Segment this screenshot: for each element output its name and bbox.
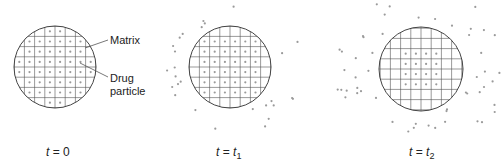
released-particle (483, 86, 485, 88)
released-particle (451, 25, 453, 27)
drug-particle (59, 81, 61, 83)
released-particle (468, 34, 470, 36)
released-particle (375, 97, 377, 99)
released-particle (356, 92, 358, 94)
released-particle (233, 6, 235, 8)
drug-particle (28, 61, 30, 63)
drug-particle (79, 91, 81, 93)
released-particle (382, 33, 384, 35)
released-particle (498, 72, 500, 74)
drug-particle (203, 81, 205, 83)
drug-particle (79, 51, 81, 53)
drug-particle (405, 73, 407, 75)
released-particle (344, 96, 346, 98)
drug-particle (203, 40, 205, 42)
released-particle (339, 49, 341, 51)
released-particle (367, 70, 369, 72)
drug-particle (214, 40, 216, 42)
panel-t2 (337, 3, 501, 132)
time-label-t2: t = t2 (409, 145, 434, 161)
released-particle (476, 76, 478, 78)
released-particle (174, 50, 176, 52)
drug-particle (234, 71, 236, 73)
released-particle (281, 52, 283, 54)
drug-label-line2: particle (110, 85, 145, 97)
panel-t0 (14, 26, 96, 108)
drug-particle (49, 51, 51, 53)
drug-particle (244, 51, 246, 53)
released-particle (356, 87, 358, 89)
drug-particle (49, 61, 51, 63)
drug-particle (49, 102, 51, 104)
matrix-label: Matrix (110, 34, 140, 46)
drug-particle (203, 71, 205, 73)
released-particle (474, 6, 476, 8)
drug-particle (234, 51, 236, 53)
released-particle (434, 18, 436, 20)
released-particle (484, 71, 486, 73)
drug-particle (59, 40, 61, 42)
drug-particle (59, 61, 61, 63)
released-particle (389, 5, 391, 7)
drug-particle (69, 71, 71, 73)
released-particle (481, 121, 483, 123)
released-particle (446, 108, 448, 110)
released-particle (418, 17, 420, 19)
released-particle (174, 66, 176, 68)
drug-particle (69, 91, 71, 93)
drug-particle (18, 71, 20, 73)
time-label-t1: t = t1 (216, 145, 241, 161)
released-particle (428, 125, 430, 127)
released-particle (444, 121, 446, 123)
released-particle (480, 52, 482, 54)
released-particle (434, 127, 436, 129)
released-particle (407, 130, 409, 132)
released-particle (264, 125, 266, 127)
released-particle (343, 69, 345, 71)
released-particle (177, 83, 179, 85)
drug-particle (234, 40, 236, 42)
drug-particle (49, 81, 51, 83)
drug-particle (79, 71, 81, 73)
released-particles (166, 6, 299, 130)
drug-particle (59, 51, 61, 53)
drug-particle (18, 61, 20, 63)
released-particle (360, 90, 362, 92)
drug-particle (90, 71, 92, 73)
released-particle (171, 86, 173, 88)
released-particle (296, 41, 298, 43)
drug-particle (203, 51, 205, 53)
drug-particle (234, 61, 236, 63)
released-particle (201, 26, 203, 28)
released-particle (214, 128, 216, 130)
released-particle (270, 100, 272, 102)
drug-label-line1: Drug (110, 72, 134, 84)
released-particle (252, 108, 254, 110)
drug-particle (224, 40, 226, 42)
released-particle (355, 57, 357, 59)
released-particle (273, 104, 275, 106)
drug-particle (39, 81, 41, 83)
drug-particle (244, 61, 246, 63)
released-particle (292, 98, 294, 100)
drug-particle (203, 61, 205, 63)
drug-particle (79, 40, 81, 42)
drug-particle (214, 71, 216, 73)
drug-particle (49, 71, 51, 73)
drug-particle (254, 81, 256, 83)
released-particle (166, 69, 168, 71)
drug-particle (244, 71, 246, 73)
released-particle (180, 81, 182, 83)
drug-particle (234, 91, 236, 93)
drug-particle (425, 63, 427, 65)
diagram-canvas: Matrix Drug particle t = 0 t = t1 t = t2 (0, 0, 502, 166)
drug-particle (28, 71, 30, 73)
drug-particle (28, 51, 30, 53)
drug-particle (79, 81, 81, 83)
released-particle (268, 118, 270, 120)
released-particle (362, 35, 364, 37)
released-particle (202, 20, 204, 22)
released-particle (476, 120, 478, 122)
drug-particle (254, 71, 256, 73)
drug-particle (244, 91, 246, 93)
